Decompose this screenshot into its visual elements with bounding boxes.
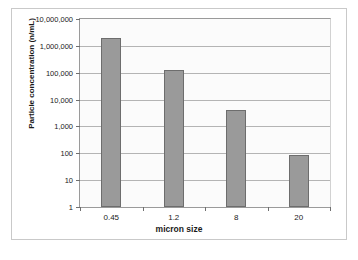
bar <box>289 155 309 207</box>
x-tick-mark <box>205 207 206 211</box>
y-tick-label: 1,000,000 <box>40 41 73 50</box>
chart-frame: Particle concentration (n/mL) 10,000,000… <box>11 8 347 240</box>
x-tick-label: 20 <box>294 213 303 222</box>
y-tick-mark <box>76 46 80 47</box>
x-tick-mark <box>268 207 269 211</box>
y-tick-mark <box>76 126 80 127</box>
y-tick-label: 1,000 <box>54 122 73 131</box>
x-axis-title: micron size <box>12 224 346 234</box>
x-tick-mark <box>330 207 331 211</box>
y-tick-label: 1 <box>69 203 73 212</box>
y-tick-mark <box>76 73 80 74</box>
x-tick-label: 0.45 <box>103 213 119 222</box>
bar <box>226 110 246 207</box>
x-tick-mark <box>143 207 144 211</box>
bar <box>164 70 184 207</box>
y-tick-mark <box>76 19 80 20</box>
y-axis-title: Particle concentration (n/mL) <box>27 0 36 149</box>
y-tick-label: 10 <box>65 176 73 185</box>
y-tick-label: 100,000 <box>46 68 73 77</box>
y-tick-mark <box>76 153 80 154</box>
bar <box>101 38 121 207</box>
plot-area: 10,000,0001,000,000100,00010,0001,000100… <box>79 18 331 208</box>
y-tick-label: 100 <box>60 149 73 158</box>
x-tick-label: 1.2 <box>168 213 179 222</box>
y-tick-mark <box>76 180 80 181</box>
y-tick-label: 10,000,000 <box>35 15 73 24</box>
x-tick-mark <box>80 207 81 211</box>
y-tick-mark <box>76 100 80 101</box>
y-tick-label: 10,000 <box>50 95 73 104</box>
x-tick-label: 8 <box>234 213 238 222</box>
